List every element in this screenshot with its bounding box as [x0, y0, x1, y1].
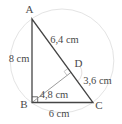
vertex-label-a: A: [26, 3, 34, 15]
measure-label-ab: 8 cm: [9, 53, 30, 64]
triangle-figure-svg: A B C D 8 cm 6,4 cm 3,6 cm 4,8 cm 6 cm: [0, 0, 122, 124]
vertex-label-c: C: [95, 99, 102, 111]
right-angle-mark-d: [64, 68, 68, 75]
geometry-diagram: A B C D 8 cm 6,4 cm 3,6 cm 4,8 cm 6 cm: [0, 0, 122, 124]
measure-label-bd: 4,8 cm: [40, 89, 69, 100]
vertex-label-d: D: [75, 57, 83, 69]
vertex-label-b: B: [20, 98, 27, 110]
measure-label-ad: 6,4 cm: [50, 34, 79, 45]
measure-label-bc: 6 cm: [49, 108, 70, 119]
measure-label-dc: 3,6 cm: [83, 75, 112, 86]
